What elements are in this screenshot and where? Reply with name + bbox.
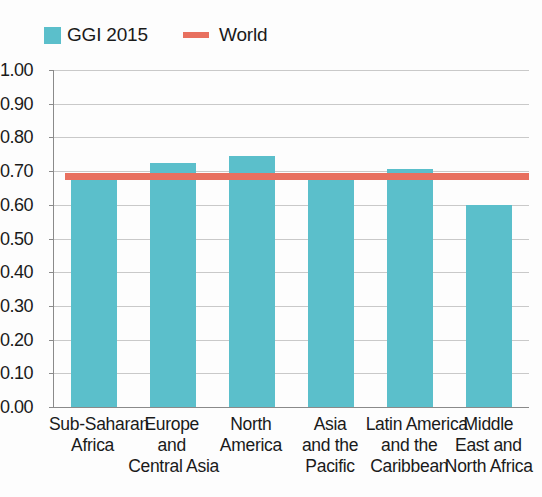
y-axis-tick-label: 0.40 — [0, 262, 33, 283]
y-axis-tick — [49, 70, 54, 71]
x-axis-category-label: Latin Americaand theCaribbean — [366, 414, 453, 477]
gridline — [54, 70, 529, 71]
gridline — [54, 205, 529, 206]
x-axis-category-label: Sub-SaharanAfrica — [49, 414, 136, 456]
x-axis-category-label: NorthAmerica — [207, 414, 294, 456]
world-reference-line — [65, 173, 529, 180]
legend-square-swatch-icon — [44, 27, 61, 44]
plot-area: 1.000.900.800.700.600.500.400.300.200.10… — [53, 70, 529, 408]
gridline — [54, 340, 529, 341]
y-axis-tick — [49, 373, 54, 374]
chart-figure: GGI 2015 World 1.000.900.800.700.600.500… — [0, 0, 542, 497]
x-axis-label-line: Caribbean — [366, 456, 453, 477]
y-axis-tick-label: 0.80 — [0, 127, 33, 148]
y-axis-tick-label: 0.60 — [0, 194, 33, 215]
x-axis-label-line: Latin America — [366, 414, 453, 435]
x-axis-category-label: Asiaand thePacific — [287, 414, 374, 477]
x-axis-label-line: and — [128, 435, 215, 456]
legend-label-ggi-2015: GGI 2015 — [67, 24, 148, 46]
y-axis-tick — [49, 340, 54, 341]
legend-item-world: World — [183, 20, 267, 50]
y-axis-tick-label: 0.70 — [0, 161, 33, 182]
x-axis-label-line: Asia — [287, 414, 374, 435]
x-axis-label-line: Africa — [49, 435, 136, 456]
y-axis-tick-label: 0.00 — [0, 397, 33, 418]
bar — [308, 178, 354, 407]
x-axis-label-line: Sub-Saharan — [49, 414, 136, 435]
legend-line-swatch-icon — [183, 32, 209, 38]
gridline — [54, 272, 529, 273]
y-axis-tick-label: 0.50 — [0, 228, 33, 249]
legend-item-ggi-2015: GGI 2015 — [44, 20, 148, 50]
y-axis-tick-label: 0.10 — [0, 363, 33, 384]
y-axis-tick — [49, 407, 54, 408]
chart-legend: GGI 2015 World — [0, 20, 542, 54]
x-axis-label-line: and the — [287, 435, 374, 456]
y-axis-tick-label: 1.00 — [0, 60, 33, 81]
bar — [71, 180, 117, 407]
y-axis-tick — [49, 272, 54, 273]
y-axis-tick — [49, 137, 54, 138]
gridline — [54, 137, 529, 138]
y-axis-tick — [49, 104, 54, 105]
gridline — [54, 373, 529, 374]
y-axis-tick — [49, 171, 54, 172]
y-axis-tick — [49, 306, 54, 307]
x-axis-label-line: Europe — [128, 414, 215, 435]
y-axis-tick-label: 0.20 — [0, 329, 33, 350]
bar — [229, 156, 275, 407]
x-axis-label-line: North Africa — [445, 456, 532, 477]
x-axis-label-line: Central Asia — [128, 456, 215, 477]
y-axis-tick — [49, 205, 54, 206]
y-axis-tick — [49, 239, 54, 240]
legend-label-world: World — [219, 24, 267, 46]
bar — [466, 205, 512, 407]
x-axis-category-label: MiddleEast andNorth Africa — [445, 414, 532, 477]
bar — [387, 169, 433, 407]
y-axis-tick-label: 0.90 — [0, 93, 33, 114]
y-axis-tick-label: 0.30 — [0, 295, 33, 316]
bar — [150, 163, 196, 407]
x-axis-label-line: North — [207, 414, 294, 435]
x-axis-label-line: East and — [445, 435, 532, 456]
gridline — [54, 104, 529, 105]
x-axis-label-line: and the — [366, 435, 453, 456]
gridline — [54, 306, 529, 307]
gridline — [54, 171, 529, 172]
x-axis-label-line: Pacific — [287, 456, 374, 477]
x-axis-category-label: EuropeandCentral Asia — [128, 414, 215, 477]
x-axis-label-line: America — [207, 435, 294, 456]
gridline — [54, 239, 529, 240]
x-axis-label-line: Middle — [445, 414, 532, 435]
